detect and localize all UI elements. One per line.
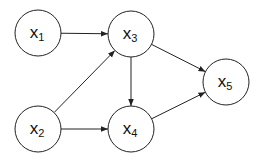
- node-x3: x3: [108, 11, 154, 57]
- edge-x3-to-x5: [152, 44, 206, 71]
- node-x5: x5: [203, 59, 249, 105]
- edge-x2-to-x3: [54, 50, 115, 112]
- node-x2: x2: [15, 106, 61, 152]
- nodes: x1x2x3x4x5: [15, 10, 249, 152]
- node-x4: x4: [108, 106, 154, 152]
- dag-diagram: x1x2x3x4x5: [0, 0, 259, 160]
- edge-x4-to-x5: [152, 92, 206, 119]
- node-x1: x1: [15, 10, 61, 56]
- edge-x1-to-x3: [61, 33, 108, 34]
